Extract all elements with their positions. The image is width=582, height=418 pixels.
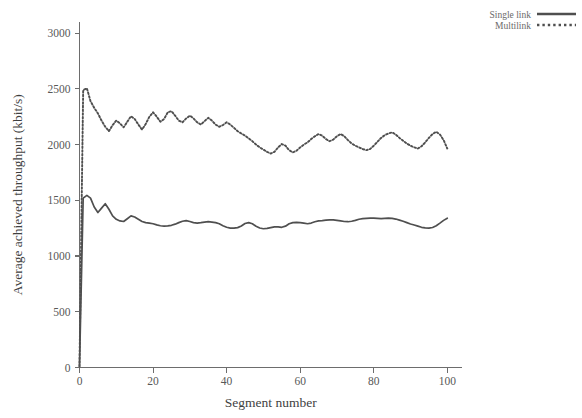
x-tick-label: 0: [77, 375, 83, 387]
axis-spines: [80, 22, 463, 368]
y-tick-label: 0: [65, 362, 71, 374]
axis-ticks: 050010001500200025003000020406080100: [48, 27, 457, 386]
throughput-line-chart: 050010001500200025003000020406080100 Seg…: [0, 0, 582, 418]
y-tick-label: 1000: [48, 250, 71, 262]
chart-figure: 050010001500200025003000020406080100 Seg…: [0, 0, 582, 418]
x-tick-label: 40: [221, 375, 233, 387]
x-tick-label: 100: [439, 375, 457, 387]
x-tick-label: 80: [368, 375, 380, 387]
y-tick-label: 3000: [48, 27, 71, 39]
series-path-multilink: [80, 88, 448, 366]
y-tick-label: 2500: [48, 83, 71, 95]
chart-series: [80, 88, 448, 366]
y-axis-title: Average achieved throughput (kbit/s): [10, 94, 25, 295]
chart-legend: Single linkMultilink: [490, 10, 576, 31]
legend-label-single-link: Single link: [490, 10, 532, 20]
y-tick-label: 1500: [48, 194, 71, 206]
x-tick-label: 20: [147, 375, 159, 387]
x-tick-label: 60: [294, 375, 306, 387]
legend-label-multilink: Multilink: [495, 21, 531, 31]
series-path-single-link: [80, 195, 448, 366]
y-tick-label: 500: [53, 306, 71, 318]
chart-axes: [80, 22, 463, 368]
y-tick-label: 2000: [48, 139, 71, 151]
x-axis-title: Segment number: [225, 395, 317, 410]
